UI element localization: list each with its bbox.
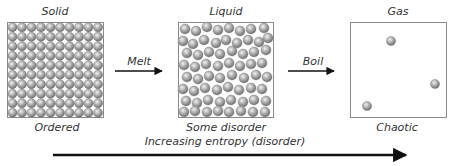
particle [17,99,26,108]
particle [55,89,64,98]
particle [261,45,271,55]
particle [74,108,83,117]
particle [8,80,17,89]
particle [84,61,93,70]
particle [74,70,83,79]
particle [93,80,102,89]
particle [93,51,102,60]
particle [191,26,201,36]
particle [199,35,209,45]
particle [84,108,93,117]
particle [27,99,36,108]
particle [213,61,223,71]
particle [224,58,234,68]
particle [36,61,45,70]
particle [84,42,93,51]
particle [74,32,83,41]
particle [65,42,74,51]
particle [259,23,269,33]
particle [221,35,231,45]
particle [246,83,256,93]
particle [181,96,191,106]
particle [46,42,55,51]
particle [189,86,199,96]
particle [84,99,93,108]
particle [193,74,203,84]
particle [17,80,26,89]
particle [55,42,64,51]
particle [55,32,64,41]
particle [55,80,64,89]
particle [65,61,74,70]
liquid-title: Liquid [209,6,242,17]
particle [178,36,188,46]
particle [74,61,83,70]
particle [190,106,200,116]
particle [203,95,213,105]
particle [180,24,190,34]
particle [84,70,93,79]
particle [55,23,64,32]
particle [248,107,258,117]
particle [46,23,55,32]
particle [46,99,55,108]
particle [211,38,221,48]
particle [8,51,17,60]
particle [182,72,192,82]
particle [55,108,64,117]
particle [65,99,74,108]
particle [261,96,271,106]
particle [200,83,210,93]
particle [226,95,236,105]
particle [93,23,102,32]
particle [17,70,26,79]
particle [27,51,36,60]
particle [36,42,45,51]
particle [55,70,64,79]
particle [8,23,17,32]
particle [46,32,55,41]
particle [17,32,26,41]
particle [179,107,189,117]
particle [246,59,256,69]
entropy-axis-label: Increasing entropy (disorder) [145,136,306,147]
particle [204,71,214,81]
particle [257,84,267,94]
particle [17,61,26,70]
particle [74,80,83,89]
particle [17,42,26,51]
particle [239,73,249,83]
particle [36,108,45,117]
particle [36,51,45,60]
particle [46,89,55,98]
particle [8,32,17,41]
particle [74,99,83,108]
particle [27,89,36,98]
particle [46,80,55,89]
particle [27,70,36,79]
particle [36,23,45,32]
particle [223,82,233,92]
particle [227,70,237,80]
particle [243,35,253,45]
particle [179,60,189,70]
particle [8,108,17,117]
particle [46,108,55,117]
particle [260,107,270,117]
particle [84,80,93,89]
particle [65,23,74,32]
particle [65,51,74,60]
solid-caption: Ordered [34,122,79,133]
gas-caption: Chaotic [376,122,418,133]
gas-title: Gas [388,6,409,17]
particle [8,70,17,79]
particle [17,89,26,98]
particle [224,107,234,117]
particle [202,107,212,117]
melt-label: Melt [127,56,151,67]
particle [17,51,26,60]
particle [65,80,74,89]
particle [386,36,395,45]
particle [190,62,200,72]
particle [65,70,74,79]
